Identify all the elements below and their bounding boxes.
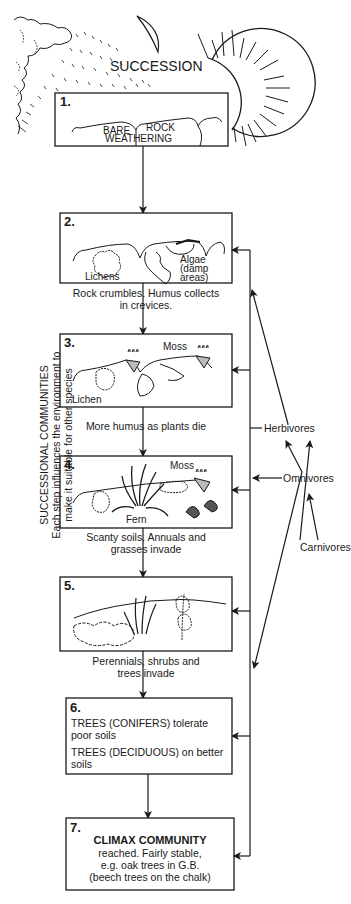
moss-label: Moss — [163, 341, 187, 353]
caption-line: Perennials, shrubs and — [60, 655, 232, 667]
fern-label: Fern — [126, 514, 147, 526]
herbivores-label: Herbivores — [264, 422, 315, 434]
successional-communities-label: SUCCESSIONAL COMMUNITIES Each step influ… — [38, 330, 74, 560]
step-4-caption: Scanty soils. Annuals and grasses invade — [60, 531, 232, 555]
diagram-title: SUCCESSION — [110, 58, 203, 74]
caption-line: grasses invade — [60, 543, 232, 555]
carnivores-label: Carnivores — [300, 541, 351, 553]
step-1-number: 1. — [60, 95, 71, 110]
step-2-caption: Rock crumbles. Humus collects in crevice… — [60, 287, 232, 311]
caption-line: in crevices. — [60, 299, 232, 311]
caption-line: Rock crumbles. Humus collects — [60, 287, 232, 299]
step-3-caption: More humus as plants die — [60, 420, 232, 432]
lichen-label: Lichen — [72, 394, 101, 406]
step-6-line: TREES (DECIDUOUS) on better — [71, 746, 223, 758]
step-6-text: TREES (CONIFERS) tolerate poor soils TRE… — [71, 717, 223, 770]
climax-line: (beech trees on the chalk) — [66, 871, 234, 883]
step-7-text: CLIMAX COMMUNITY reached. Fairly stable,… — [66, 834, 234, 883]
step-6-line: TREES (CONIFERS) tolerate — [71, 717, 223, 729]
step-2-number: 2. — [64, 215, 75, 230]
lichens-label: Lichens — [85, 271, 119, 283]
omnivores-label: Omnivores — [283, 472, 334, 484]
moss-label: Moss — [170, 460, 194, 472]
step-6-number: 6. — [70, 701, 81, 716]
step-5-number: 5. — [64, 579, 75, 594]
step-5-caption: Perennials, shrubs and trees invade — [60, 655, 232, 679]
side-heading: SUCCESSIONAL COMMUNITIES — [38, 330, 50, 560]
side-line: Each step influences the environment to — [50, 330, 62, 560]
algae-areas-label: areas) — [180, 272, 208, 284]
climax-line: reached. Fairly stable, — [66, 847, 234, 859]
caption-line: Scanty soils. Annuals and — [60, 531, 232, 543]
climax-heading: CLIMAX COMMUNITY — [66, 834, 234, 847]
weathering-label: WEATHERING — [105, 133, 172, 145]
step-6-line: poor soils — [71, 729, 223, 741]
side-line: make it suitable for other species — [62, 330, 74, 560]
moon-icon — [137, 16, 159, 52]
caption-line: trees invade — [60, 667, 232, 679]
step-6-line: soils — [71, 758, 223, 770]
climax-line: e.g. oak trees in G.B. — [66, 859, 234, 871]
rock-label: ROCK — [146, 122, 175, 134]
